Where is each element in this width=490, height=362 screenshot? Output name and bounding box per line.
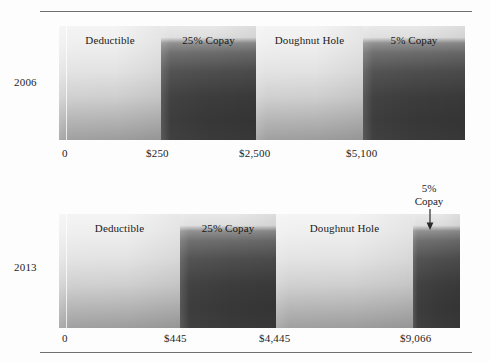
bar-row-2006: Deductible 25% Copay Doughnut Hole 5% Co… (59, 26, 465, 140)
callout-5-copay-2013: 5% Copay (398, 182, 460, 208)
segment-25-copay-2006: 25% Copay (161, 26, 256, 140)
segment-25-copay-2013: 25% Copay (180, 214, 276, 328)
axis-labels-2006: 0 $250 $2,500 $5,100 (0, 147, 490, 165)
axis-labels-2013: 0 $445 $4,445 $9,066 (0, 332, 490, 350)
segment-label-doughnut-hole-2006: Doughnut Hole (256, 34, 363, 47)
year-label-2013: 2013 (14, 261, 58, 273)
bar-row-2013: Deductible 25% Copay Doughnut Hole (59, 214, 460, 328)
axis-tick-2006-0: 0 (62, 147, 68, 159)
callout-arrow-icon (425, 209, 435, 231)
segment-label-deductible-2013: Deductible (59, 222, 180, 235)
axis-tick-2013-0: 0 (62, 332, 68, 344)
chart-figure: 2006 Deductible 25% Copay Doughnut Hole … (0, 0, 490, 362)
axis-tick-2013-3: $9,066 (400, 332, 431, 344)
segment-doughnut-hole-2013: Doughnut Hole (276, 214, 413, 328)
segment-deductible-2006: Deductible (59, 26, 161, 140)
segment-label-25-copay-2013: 25% Copay (180, 222, 276, 235)
segment-label-doughnut-hole-2013: Doughnut Hole (276, 222, 413, 235)
segment-5-copay-2006: 5% Copay (363, 26, 465, 140)
bottom-rule (40, 352, 472, 353)
segment-label-25-copay-2006: 25% Copay (161, 34, 256, 47)
year-label-2006: 2006 (14, 76, 58, 88)
axis-tick-2006-2: $2,500 (239, 147, 270, 159)
axis-tick-2006-3: $5,100 (346, 147, 377, 159)
callout-line-2: Copay (398, 195, 460, 208)
callout-line-1: 5% (398, 182, 460, 195)
segment-label-deductible-2006: Deductible (59, 34, 161, 47)
segment-5-copay-2013 (413, 214, 460, 328)
segment-label-5-copay-2006: 5% Copay (363, 34, 465, 47)
segment-doughnut-hole-2006: Doughnut Hole (256, 26, 363, 140)
axis-tick-2013-1: $445 (164, 332, 187, 344)
axis-tick-2013-2: $4,445 (259, 332, 290, 344)
axis-tick-2006-1: $250 (146, 147, 169, 159)
segment-deductible-2013: Deductible (59, 214, 180, 328)
top-rule (40, 11, 472, 12)
